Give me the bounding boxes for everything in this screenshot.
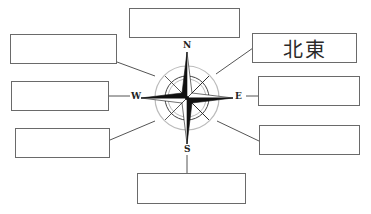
answer-box-south[interactable] [137, 173, 246, 204]
answer-box-southeast[interactable] [259, 125, 360, 155]
label-west: W [131, 91, 141, 101]
label-east: E [235, 91, 242, 101]
answer-box-southwest[interactable] [15, 128, 110, 158]
compass-rose-icon [141, 52, 233, 144]
connector-northwest [117, 62, 155, 76]
label-north: N [183, 40, 191, 50]
connector-southwest [110, 121, 155, 140]
answer-box-northeast[interactable]: 北東 [252, 33, 357, 63]
answer-box-east[interactable] [258, 76, 360, 106]
connector-northeast [216, 48, 253, 74]
answer-box-northwest[interactable] [10, 34, 117, 64]
label-south: S [184, 144, 191, 154]
answer-box-north[interactable] [129, 8, 240, 38]
answer-text-northeast: 北東 [283, 34, 327, 63]
connector-southeast [217, 121, 259, 141]
answer-box-west[interactable] [11, 81, 109, 111]
